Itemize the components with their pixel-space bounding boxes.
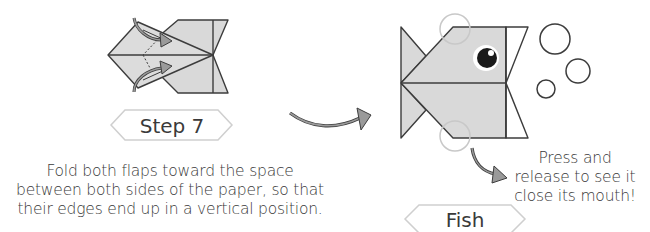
fish-origami	[401, 27, 528, 138]
step-description: Fold both flaps toward the space between…	[0, 162, 340, 219]
description-line: Fold both flaps toward the space	[0, 162, 340, 181]
fish-label: Fish	[405, 205, 525, 232]
description-line: their edges end up in a vertical positio…	[0, 200, 340, 219]
step-label: Step 7	[112, 111, 232, 141]
transition-arrow-icon	[290, 108, 371, 130]
fish-mouth	[506, 27, 528, 138]
fish-eye	[473, 45, 499, 71]
instruction-line: Press and	[500, 149, 650, 168]
description-line: between both sides of the paper, so that	[0, 181, 340, 200]
bubbles	[537, 24, 590, 98]
press-instruction: Press and release to see it close its mo…	[500, 149, 650, 206]
instruction-line: close its mouth!	[500, 187, 650, 206]
instruction-line: release to see it	[500, 168, 650, 187]
step7-origami-diagram	[108, 18, 228, 93]
